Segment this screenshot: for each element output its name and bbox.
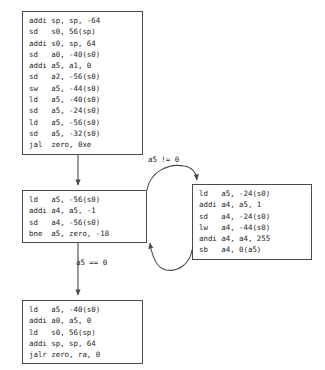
edge-label-a5-not-equal-zero: a5 != 0 [148,155,179,165]
code-line: addi s0, sp, 64 [29,38,137,49]
code-line: addi a5, a1, 0 [29,60,137,71]
code-line: ld a5, -56(s0) [29,194,141,205]
entry-block: addi sp, sp, -64 sd s0, 56(sp) addi s0, … [22,11,143,155]
edge-loop-body-to-loop-head [150,243,192,270]
code-line: sd s0, 56(sp) [29,26,137,37]
edge-label-a5-equal-zero: a5 == 0 [76,258,107,268]
control-flow-graph: addi sp, sp, -64 sd s0, 56(sp) addi s0, … [0,0,325,370]
code-line: sd a2, -56(s0) [29,71,137,82]
code-line: lw a4, -44(s0) [199,222,306,233]
code-line: addi sp, sp, -64 [29,15,137,26]
code-line: sd a0, -40(s0) [29,49,137,60]
code-line: bne a5, zero, -18 [29,228,141,239]
code-line: ld a5, -40(s0) [29,304,137,315]
code-line: andi a4, a4, 255 [199,233,306,244]
code-line: sd a5, -32(s0) [29,128,137,139]
exit-block: ld a5, -40(s0) addi a0, a5, 0 ld s0, 56(… [22,300,143,364]
code-line: addi sp, sp, 64 [29,338,137,349]
edge-loop-head-to-loop-body [147,165,197,190]
code-line: sd a4, -24(s0) [199,211,306,222]
code-line: addi a0, a5, 0 [29,315,137,326]
code-line: addi a4, a5, -1 [29,205,141,216]
code-line: ld a5, -56(s0) [29,117,137,128]
code-line: sd a4, -56(s0) [29,217,141,228]
code-line: jal zero, 0xe [29,139,137,150]
code-line: ld a5, -40(s0) [29,94,137,105]
loop-head-block: ld a5, -56(s0) addi a4, a5, -1 sd a4, -5… [22,190,147,243]
code-line: jalr zero, ra, 0 [29,349,137,360]
code-line: sd a5, -24(s0) [29,105,137,116]
code-line: ld a5, -24(s0) [199,188,306,199]
code-line: sb a4, 0(a5) [199,244,306,255]
code-line: addi a4, a5, 1 [199,199,306,210]
code-line: sw a5, -44(s0) [29,83,137,94]
code-line: ld s0, 56(sp) [29,327,137,338]
loop-body-block: ld a5, -24(s0) addi a4, a5, 1 sd a4, -24… [192,184,312,260]
